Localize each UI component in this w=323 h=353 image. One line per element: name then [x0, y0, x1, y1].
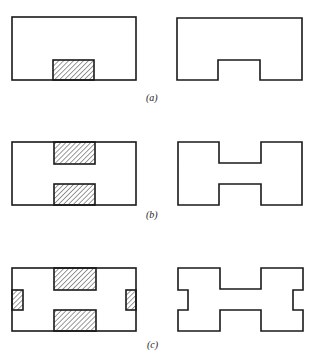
panel-c-right — [178, 268, 303, 331]
panel-b-left — [12, 142, 136, 205]
panel-b-label: (b) — [146, 209, 158, 220]
panel-b-right — [178, 142, 302, 205]
panel-c-label: (c) — [147, 339, 158, 350]
panel-a-label: (a) — [146, 92, 158, 103]
panel-c-left — [12, 268, 136, 331]
panel-a-left — [12, 17, 136, 80]
panel-a-right — [177, 18, 302, 80]
diagram-canvas — [0, 0, 323, 353]
